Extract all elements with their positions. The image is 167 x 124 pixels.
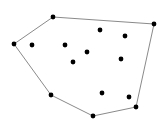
interior-point-p4 [123, 34, 128, 39]
interior-point-p9 [127, 95, 132, 100]
hull-edge-h3-h4 [93, 107, 136, 116]
convex-hull-diagram [0, 0, 167, 124]
hull-edge-h6-h1 [14, 17, 53, 44]
hull-point-h5 [49, 93, 54, 98]
hull-point-h6 [12, 42, 17, 47]
hull-edge-h2-h3 [136, 24, 154, 107]
interior-point-p8 [100, 91, 105, 96]
hull-point-h3 [134, 105, 139, 110]
hull-point-h4 [91, 114, 96, 119]
hull-point-h1 [51, 15, 56, 20]
hull-point-h2 [152, 22, 157, 27]
interior-point-p6 [71, 60, 76, 65]
hull-edge-h1-h2 [53, 17, 154, 24]
hull-edge-h4-h5 [51, 95, 93, 116]
hull-edges [14, 17, 154, 116]
hull-edge-h5-h6 [14, 44, 51, 95]
interior-point-p3 [98, 28, 103, 33]
interior-point-p7 [119, 57, 124, 62]
interior-point-p2 [63, 43, 68, 48]
interior-point-p1 [30, 43, 35, 48]
interior-point-p5 [85, 50, 90, 55]
